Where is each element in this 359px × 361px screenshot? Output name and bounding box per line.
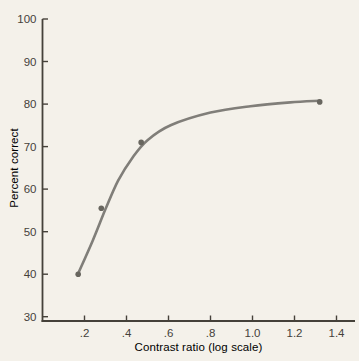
x-tick-label: .6 bbox=[164, 327, 174, 339]
data-point bbox=[75, 271, 81, 277]
y-tick-label: 30 bbox=[24, 311, 37, 323]
data-point bbox=[317, 99, 323, 105]
y-tick-label: 80 bbox=[24, 98, 37, 110]
y-tick-label: 60 bbox=[24, 183, 37, 195]
y-tick-label: 40 bbox=[24, 268, 37, 280]
paper-background bbox=[0, 0, 359, 361]
x-tick-label: .4 bbox=[122, 327, 132, 339]
data-point bbox=[138, 140, 144, 146]
y-tick-label: 100 bbox=[17, 13, 36, 25]
y-tick-label: 70 bbox=[24, 141, 37, 153]
y-tick-label: 90 bbox=[24, 56, 37, 68]
x-tick-label: 1.4 bbox=[329, 327, 346, 339]
x-tick-label: 1.0 bbox=[245, 327, 261, 339]
data-point bbox=[99, 206, 105, 212]
x-tick-label: .8 bbox=[206, 327, 216, 339]
chart-canvas: 30405060708090100.2.4.6.81.01.21.4 bbox=[0, 0, 359, 361]
x-axis-title: Contrast ratio (log scale) bbox=[42, 340, 355, 354]
percent-correct-vs-contrast-chart: 30405060708090100.2.4.6.81.01.21.4 Perce… bbox=[0, 0, 359, 361]
x-tick-label: 1.2 bbox=[287, 327, 303, 339]
y-tick-label: 50 bbox=[24, 226, 37, 238]
x-tick-label: .2 bbox=[80, 327, 90, 339]
y-axis-title: Percent correct bbox=[7, 128, 21, 207]
